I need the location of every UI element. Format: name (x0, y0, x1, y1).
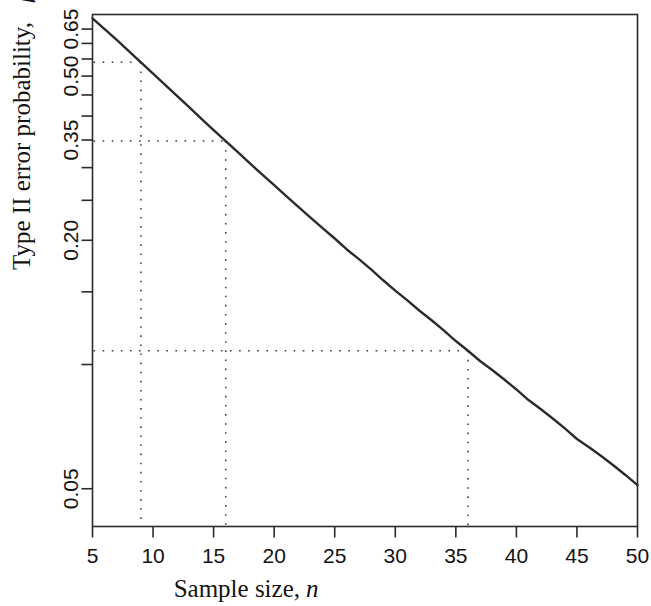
figure-background (0, 0, 651, 606)
plot-svg: 5101520253035404550 0.650.500.350.200.05… (0, 0, 651, 606)
x-tick-label: 40 (505, 544, 528, 567)
x-tick-label: 25 (323, 544, 346, 567)
x-tick-label: 10 (141, 544, 164, 567)
x-tick-label: 30 (384, 544, 407, 567)
y-axis-title: Type II error probability, β (8, 0, 35, 270)
y-tick-label: 0.65 (59, 9, 82, 50)
x-tick-label: 35 (444, 544, 467, 567)
chart-figure: 5101520253035404550 0.650.500.350.200.05… (0, 0, 651, 606)
x-tick-label: 15 (202, 544, 225, 567)
y-tick-label: 0.05 (59, 468, 82, 509)
x-axis-title: Sample size, n (174, 575, 319, 602)
y-axis-title-text: Type II error probability, (8, 22, 35, 270)
y-axis-title-variable: β (8, 0, 35, 3)
x-tick-label: 45 (565, 544, 588, 567)
x-tick-label: 50 (626, 544, 649, 567)
y-tick-label: 0.35 (59, 120, 82, 161)
x-axis-title-variable: n (306, 575, 319, 602)
x-tick-label: 20 (262, 544, 285, 567)
x-axis-title-text: Sample size, (174, 575, 300, 602)
y-tick-label: 0.50 (59, 56, 82, 97)
y-tick-label: 0.20 (59, 220, 82, 261)
x-tick-label: 5 (87, 544, 99, 567)
